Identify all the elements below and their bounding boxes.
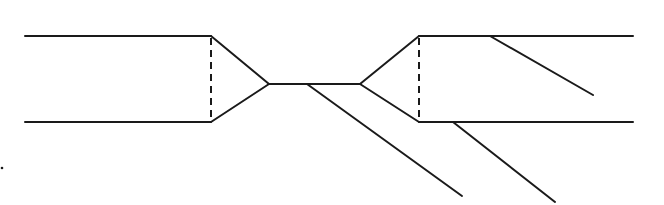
bottom-rail-diagonal (453, 122, 555, 202)
channel-diagram (0, 0, 664, 205)
dashed-dividers (211, 38, 419, 120)
left-funnel-bottom (211, 84, 269, 122)
dots (1, 167, 4, 170)
right-funnel-top (360, 36, 419, 84)
left-funnel-top (211, 36, 269, 84)
solid-lines (25, 36, 633, 202)
right-funnel-bottom (360, 84, 419, 122)
stray-dot (1, 167, 4, 170)
top-rail-diagonal (490, 36, 593, 95)
